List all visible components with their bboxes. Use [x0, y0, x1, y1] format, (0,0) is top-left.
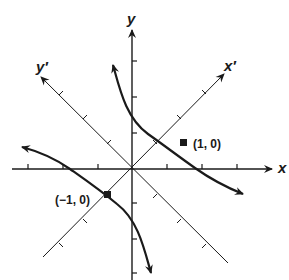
point-label-negative: (−1, 0)	[55, 193, 90, 207]
x-prime-axis-label: x′	[223, 57, 237, 74]
y-prime-axis-label: y′	[35, 58, 49, 75]
rotated-axes-diagram: x y x′ y′ (1, 0) (−1, 0)	[0, 0, 289, 280]
y-prime-axis	[41, 77, 228, 263]
x-axis	[12, 164, 272, 169]
x-axis-label: x	[277, 159, 287, 176]
point-vertex-positive	[180, 139, 187, 146]
y-axis-ticks	[132, 61, 137, 273]
y-axis-label: y	[126, 10, 136, 27]
x-prime-axis	[43, 74, 224, 257]
point-label-positive: (1, 0)	[193, 137, 221, 151]
point-vertex-negative	[104, 191, 111, 198]
y-axis	[132, 30, 137, 280]
